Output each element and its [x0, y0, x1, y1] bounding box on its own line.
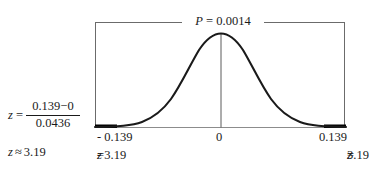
distribution-curve-svg — [95, 22, 346, 132]
formula-variable: z — [8, 108, 16, 123]
result-variable: z — [8, 145, 15, 159]
z-score-labels: z = - 3.19 z = 3.19 — [95, 148, 347, 166]
z-left-value: - 3.19 — [97, 148, 126, 163]
axis-tick-labels: - 0.139 0 0.139 — [95, 130, 347, 146]
formula-equals-sign: = — [16, 108, 26, 123]
tick-label-left: - 0.139 — [97, 130, 132, 145]
formula-fraction: 0.139−0 0.0436 — [26, 100, 80, 130]
z-score-formula: z = 0.139−0 0.0436 — [8, 100, 100, 130]
formula-denominator: 0.0436 — [34, 116, 72, 131]
formula-numerator: 0.139−0 — [30, 100, 75, 115]
z-score-result: z≈3.19 — [8, 145, 46, 160]
tick-label-right: 0.139 — [319, 130, 347, 145]
z-right-value: 3.19 — [347, 148, 369, 163]
approx-equals-sign: ≈ — [15, 145, 24, 159]
result-value: 3.19 — [24, 145, 46, 159]
formula-line: z = 0.139−0 0.0436 — [8, 100, 100, 130]
tick-label-center: 0 — [216, 130, 222, 145]
